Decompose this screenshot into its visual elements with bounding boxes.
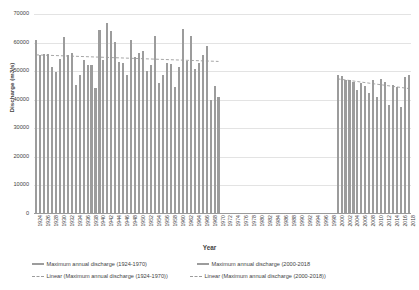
x-axis-tick-label: 2018 xyxy=(411,215,416,227)
x-axis-tick-label: 1978 xyxy=(252,215,257,227)
x-axis-tick-label: 2006 xyxy=(363,215,368,227)
legend-label: Maximum annual discharge (1924-1970) xyxy=(47,261,147,267)
x-axis-tick-label: 1956 xyxy=(165,215,170,227)
legend-bar-swatch-icon xyxy=(32,263,44,266)
trendline xyxy=(36,55,219,62)
legend-row-2: Linear (Maximum annual discharge (1924-1… xyxy=(32,270,412,282)
discharge-bar-chart: 700006000050000400003000020000100000 Dis… xyxy=(0,0,419,290)
x-axis-tick-label: 1928 xyxy=(54,215,59,227)
x-axis-tick-label: 1952 xyxy=(149,215,154,227)
legend-dashed-line-icon xyxy=(190,276,202,277)
x-axis-tick-label: 2004 xyxy=(355,215,360,227)
legend-label: Linear (Maximum annual discharge (1924-1… xyxy=(47,273,168,279)
trendline-group xyxy=(34,14,411,214)
x-axis-tick-label: 1966 xyxy=(205,215,210,227)
x-axis-tick-label: 1962 xyxy=(189,215,194,227)
x-axis-tick-label: 1954 xyxy=(157,215,162,227)
x-axis-tick-label: 1948 xyxy=(133,215,138,227)
x-axis-tick-label: 1960 xyxy=(181,215,186,227)
y-axis-tick-label: 70000 xyxy=(13,11,29,17)
x-axis-tick-label: 1990 xyxy=(300,215,305,227)
x-axis-tick-label: 1940 xyxy=(101,215,106,227)
x-axis-tick-label: 1972 xyxy=(228,215,233,227)
x-axis-tick-label: 1984 xyxy=(276,215,281,227)
y-axis-tick-label: 20000 xyxy=(13,154,29,160)
x-axis-tick-label: 2010 xyxy=(379,215,384,227)
x-axis-tick-labels: 1924192619281930193219341936193819401942… xyxy=(34,215,411,245)
legend-item-linear-2000-2018: Linear (Maximum annual discharge (2000-2… xyxy=(190,273,326,279)
y-axis-tick-label: 10000 xyxy=(13,183,29,189)
x-axis-tick-label: 1932 xyxy=(70,215,75,227)
x-axis-tick-label: 1936 xyxy=(86,215,91,227)
x-axis-tick-label: 2014 xyxy=(395,215,400,227)
x-axis-title: Year xyxy=(0,244,419,251)
x-axis-tick-label: 1944 xyxy=(117,215,122,227)
legend-label: Linear (Maximum annual discharge (2000-2… xyxy=(205,273,326,279)
legend-item-max-discharge-1924-1970: Maximum annual discharge (1924-1970) xyxy=(32,261,197,267)
x-axis-tick-label: 1982 xyxy=(268,215,273,227)
x-axis-tick-label: 1980 xyxy=(260,215,265,227)
x-axis-tick-label: 1924 xyxy=(38,215,43,227)
x-axis-tick-label: 1938 xyxy=(94,215,99,227)
x-axis-tick-label: 1950 xyxy=(141,215,146,227)
x-axis-tick-label: 1988 xyxy=(292,215,297,227)
x-axis-tick-label: 1946 xyxy=(125,215,130,227)
x-axis-tick-label: 1996 xyxy=(324,215,329,227)
x-axis-tick-label: 1998 xyxy=(332,215,337,227)
x-axis-tick-label: 1942 xyxy=(109,215,114,227)
y-axis-tick-label: 50000 xyxy=(13,68,29,74)
x-axis-tick-label: 1968 xyxy=(213,215,218,227)
x-axis-tick-label: 2000 xyxy=(340,215,345,227)
legend-bar-swatch-icon xyxy=(197,263,209,266)
trendline xyxy=(338,79,409,89)
y-axis-tick-label: 30000 xyxy=(13,125,29,131)
y-axis-tick-label: 0 xyxy=(26,211,29,217)
x-axis-tick-label: 1958 xyxy=(173,215,178,227)
x-axis-tick-label: 1970 xyxy=(221,215,226,227)
x-axis-tick-label: 1992 xyxy=(308,215,313,227)
legend-row-1: Maximum annual discharge (1924-1970) Max… xyxy=(32,258,412,270)
x-axis-tick-label: 1964 xyxy=(197,215,202,227)
legend-item-max-discharge-2000-2018: Maximum annual discharge (2000-2018 xyxy=(197,261,310,267)
x-axis-tick-label: 2008 xyxy=(371,215,376,227)
y-axis-title: Discharge (m3/s) xyxy=(8,38,15,138)
x-axis-tick-label: 2002 xyxy=(348,215,353,227)
x-axis-tick-label: 1986 xyxy=(284,215,289,227)
x-axis-tick-label: 1934 xyxy=(78,215,83,227)
x-axis-tick-label: 1976 xyxy=(244,215,249,227)
y-axis-tick-labels: 700006000050000400003000020000100000 xyxy=(0,14,32,214)
x-axis-tick-label: 1930 xyxy=(62,215,67,227)
y-axis-tick-label: 40000 xyxy=(13,97,29,103)
x-axis-tick-label: 1994 xyxy=(316,215,321,227)
x-axis-tick-label: 1926 xyxy=(46,215,51,227)
x-axis-tick-label: 2012 xyxy=(387,215,392,227)
plot-area xyxy=(34,14,411,214)
legend-label: Maximum annual discharge (2000-2018 xyxy=(212,261,311,267)
x-axis-tick-label: 2016 xyxy=(403,215,408,227)
chart-legend: Maximum annual discharge (1924-1970) Max… xyxy=(32,258,412,282)
legend-dashed-line-icon xyxy=(32,276,44,277)
y-axis-tick-label: 60000 xyxy=(13,40,29,46)
x-axis-tick-label: 1974 xyxy=(236,215,241,227)
legend-item-linear-1924-1970: Linear (Maximum annual discharge (1924-1… xyxy=(32,273,190,279)
